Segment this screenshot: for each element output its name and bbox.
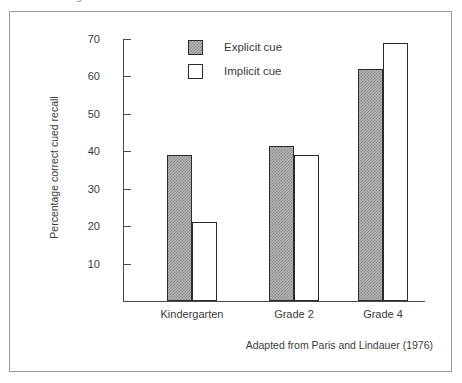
- bar-kindergarten-implicit-cue: [192, 222, 217, 301]
- y-axis-line: [123, 39, 124, 302]
- bar-grade-4-implicit-cue: [383, 43, 408, 301]
- y-axis-title: Percentage correct cued recall: [49, 88, 60, 248]
- legend-swatch-implicit-icon: [188, 64, 203, 79]
- y-axis-tick-mark: [124, 76, 131, 77]
- y-axis-tick-label: 50: [60, 109, 100, 120]
- y-axis-tick-label: 40: [60, 146, 100, 157]
- legend-swatch-explicit-icon: [188, 40, 203, 55]
- source-attribution: Adapted from Paris and Lindauer (1976): [246, 339, 433, 351]
- bar-kindergarten-explicit-cue: [167, 155, 192, 301]
- y-axis-tick-mark: [124, 264, 131, 265]
- bar-grade-2-implicit-cue: [294, 155, 319, 301]
- chart-legend: Explicit cue Implicit cue: [188, 35, 282, 83]
- bar-grade-4-explicit-cue: [358, 69, 383, 301]
- y-axis-tick-label: 20: [60, 221, 100, 232]
- bar-chart-plot-area: Percentage correct cued recall 102030405…: [10, 12, 453, 373]
- scan-artifact-glyph: ɔ: [76, 0, 94, 3]
- y-axis-tick-label: 70: [60, 34, 100, 45]
- legend-item-implicit-cue: Implicit cue: [188, 59, 282, 83]
- legend-label-explicit-cue: Explicit cue: [224, 41, 282, 53]
- legend-label-implicit-cue: Implicit cue: [224, 65, 282, 77]
- y-axis-tick-mark: [124, 114, 131, 115]
- y-axis-tick-mark: [124, 226, 131, 227]
- x-axis-line: [123, 301, 425, 302]
- y-axis-tick-label: 30: [60, 184, 100, 195]
- y-axis-tick-mark: [124, 151, 131, 152]
- y-axis-tick-label: 10: [60, 259, 100, 270]
- figure-frame: Percentage correct cued recall 102030405…: [9, 11, 452, 372]
- legend-item-explicit-cue: Explicit cue: [188, 35, 282, 59]
- bar-grade-2-explicit-cue: [269, 146, 294, 301]
- x-axis-label-grade-4: Grade 4: [323, 308, 443, 320]
- y-axis-tick-label: 60: [60, 71, 100, 82]
- y-axis-tick-mark: [124, 189, 131, 190]
- y-axis-tick-mark: [124, 39, 131, 40]
